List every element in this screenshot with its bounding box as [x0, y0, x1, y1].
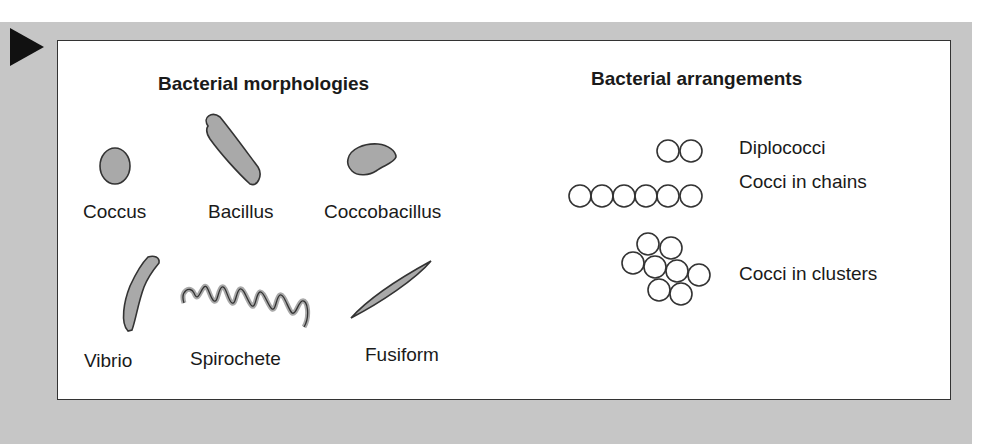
coccus-shape	[100, 148, 130, 184]
coccobacillus-shape	[348, 144, 396, 175]
diplococci-circles	[657, 140, 702, 162]
cocci-cluster-circles	[622, 233, 710, 305]
figure-box: Bacterial morphologies Bacterial arrange…	[57, 40, 951, 400]
play-triangle-icon	[10, 28, 44, 66]
cocci-chain-circles	[569, 185, 702, 207]
spirochete-shape	[183, 286, 308, 327]
fusiform-shape	[351, 261, 431, 318]
diagram-stage: Bacterial morphologies Bacterial arrange…	[0, 0, 990, 444]
diagram-artwork	[58, 41, 952, 401]
bacillus-shape	[206, 115, 260, 185]
vibrio-shape	[124, 256, 160, 331]
